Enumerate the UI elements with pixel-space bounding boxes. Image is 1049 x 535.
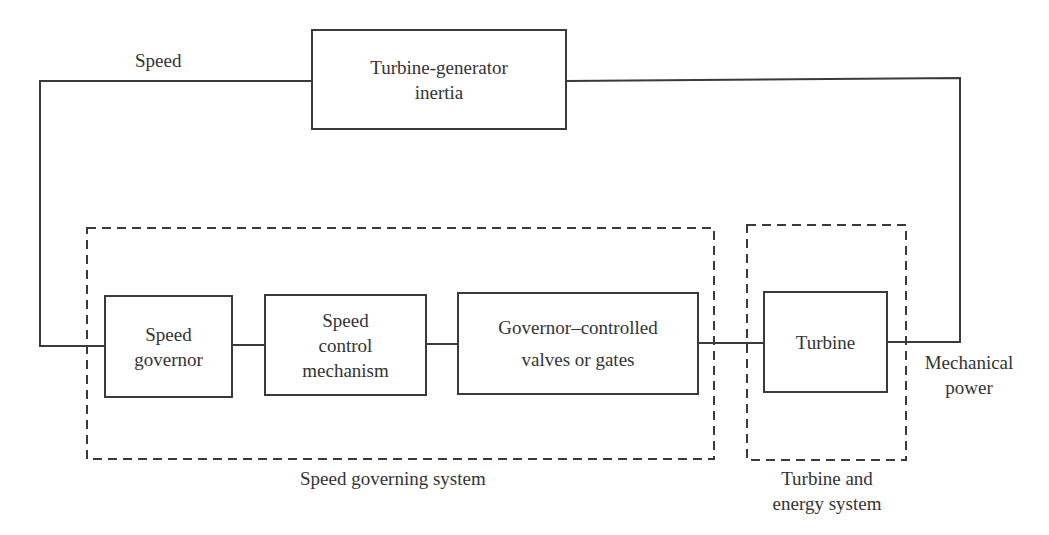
turbine-energy-system-label: Turbine and energy system (756, 466, 898, 516)
block-label: Speed (145, 322, 191, 347)
speed-control-mechanism-block: Speed control mechanism (264, 294, 427, 396)
speed-governor-block: Speed governor (104, 295, 233, 398)
governor-controlled-valves-block: Governor–controlled valves or gates (457, 292, 699, 395)
speed-governing-system-label: Speed governing system (300, 466, 486, 491)
block-label: control (319, 333, 373, 358)
mechanical-power-line2: power (914, 375, 1024, 400)
block-label: governor (134, 347, 203, 372)
block-label: inertia (415, 80, 464, 105)
mechanical-power-line1: Mechanical (914, 350, 1024, 375)
turbine-energy-line2: energy system (756, 491, 898, 516)
block-label: mechanism (302, 358, 389, 383)
block-label: Turbine (796, 330, 855, 355)
turbine-energy-line1: Turbine and (756, 466, 898, 491)
turbine-block: Turbine (763, 291, 888, 393)
mechanical-power-label: Mechanical power (914, 350, 1024, 400)
block-label: valves or gates (522, 344, 635, 376)
speed-signal-label: Speed (135, 48, 181, 73)
block-label: Turbine-generator (370, 55, 508, 80)
block-label: Speed (322, 308, 368, 333)
turbine-generator-inertia-block: Turbine-generator inertia (311, 29, 567, 130)
block-label: Governor–controlled (498, 312, 657, 344)
